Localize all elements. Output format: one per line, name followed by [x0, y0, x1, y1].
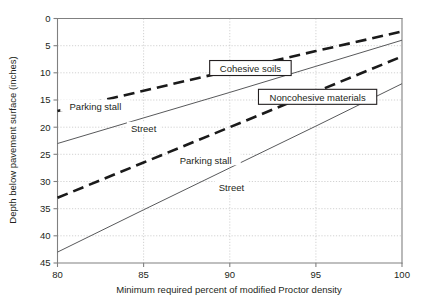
x-tick-label: 100	[394, 269, 410, 280]
y-tick-label: 0	[45, 13, 50, 24]
y-tick-label: 35	[40, 203, 51, 214]
y-tick-label: 25	[40, 149, 51, 160]
series-inline-label: Parking stall	[70, 101, 122, 112]
x-tick-label: 95	[311, 269, 322, 280]
y-tick-label: 30	[40, 176, 51, 187]
x-tick-label: 85	[138, 269, 149, 280]
y-tick-label: 40	[40, 230, 51, 241]
x-tick-label: 90	[224, 269, 235, 280]
legend-label: Noncohesive materials	[270, 92, 366, 103]
proctor-density-depth-chart: 05101520253035404580859095100 Parking st…	[0, 0, 429, 305]
y-tick-label: 5	[45, 40, 50, 51]
y-tick-label: 15	[40, 94, 51, 105]
chart-container: 05101520253035404580859095100 Parking st…	[0, 0, 429, 305]
series-inline-label: Street	[131, 123, 157, 134]
x-tick-label: 80	[52, 269, 63, 280]
legend-label: Cohesive soils	[220, 63, 281, 74]
x-axis-title: Minimum required percent of modified Pro…	[116, 284, 342, 295]
series-inline-label: Parking stall	[180, 155, 232, 166]
series-inline-label: Street	[219, 182, 245, 193]
y-tick-label: 20	[40, 122, 51, 133]
y-tick-label: 10	[40, 67, 51, 78]
y-axis-title: Depth below pavement surface (inches)	[7, 56, 18, 223]
y-tick-label: 45	[40, 257, 51, 268]
tick-labels: 05101520253035404580859095100	[40, 13, 410, 280]
